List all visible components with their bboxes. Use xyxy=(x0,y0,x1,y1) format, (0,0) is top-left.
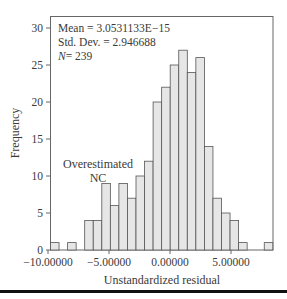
y-tick-label: 0 xyxy=(37,244,43,256)
histogram-bar xyxy=(102,183,111,250)
stat-mean: Mean = 3.0531133E−15 xyxy=(58,22,170,34)
x-tick-label: 0.00000 xyxy=(151,256,189,268)
y-tick-label: 30 xyxy=(32,22,44,34)
bottom-rule xyxy=(0,290,287,293)
y-tick-label: 10 xyxy=(32,170,44,182)
stats-box: Mean = 3.0531133E−15 Std. Dev. = 2.94668… xyxy=(57,22,170,62)
histogram-bar xyxy=(162,87,171,250)
x-tick-label: −10.00000 xyxy=(23,256,73,268)
histogram-bars xyxy=(51,50,273,250)
y-tick-label: 20 xyxy=(32,96,44,108)
histogram-bar xyxy=(127,198,136,250)
annotation-overestimated-nc: Overestimated NC xyxy=(63,157,133,185)
annotation-line-1: Overestimated xyxy=(63,157,133,171)
y-tick-label: 5 xyxy=(37,207,43,219)
histogram-bar xyxy=(110,206,119,250)
histogram-bar xyxy=(85,220,94,250)
histogram-bar xyxy=(153,102,162,250)
x-tick-label: −5.00000 xyxy=(87,256,131,268)
stat-std-dev: Std. Dev. = 2.946688 xyxy=(58,36,156,48)
annotation-line-2: NC xyxy=(90,171,107,185)
histogram-bar xyxy=(187,72,196,250)
histogram-bar xyxy=(239,243,248,250)
histogram-bar xyxy=(68,243,77,250)
histogram-bar xyxy=(230,220,239,250)
histogram-bar xyxy=(170,65,179,250)
histogram-chart: 051015202530 −10.00000−5.000000.000005.0… xyxy=(0,0,287,299)
stat-n: N= 239 xyxy=(57,50,93,62)
histogram-bar xyxy=(264,243,273,250)
y-axis-label: Frequency xyxy=(8,108,22,159)
histogram-bar xyxy=(145,161,154,250)
histogram-bar xyxy=(204,146,213,250)
x-axis: −10.00000−5.000000.000005.00000 xyxy=(23,250,250,268)
y-tick-label: 25 xyxy=(32,59,44,71)
histogram-bar xyxy=(51,243,60,250)
histogram-bar xyxy=(93,220,102,250)
histogram-bar xyxy=(179,50,188,250)
y-axis: 051015202530 xyxy=(32,22,51,256)
y-tick-label: 15 xyxy=(32,133,44,145)
histogram-bar xyxy=(119,183,128,250)
x-axis-label: Unstandardized residual xyxy=(104,273,221,287)
histogram-bar xyxy=(196,58,205,250)
histogram-bar xyxy=(222,213,231,250)
x-tick-label: 5.00000 xyxy=(212,256,250,268)
histogram-bar xyxy=(136,176,145,250)
histogram-bar xyxy=(213,198,222,250)
